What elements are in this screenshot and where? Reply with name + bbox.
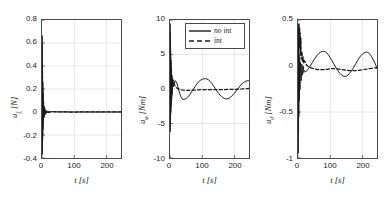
x-tick-label: 0 [155,162,183,170]
y-tick-label: 5 [128,50,165,58]
x-tick-label: 200 [349,162,377,170]
y-axis-label-unit: [Nm] [263,96,273,114]
x-axis-label-u-phi: t [s] [169,176,250,185]
y-tick-label: 0.5 [256,15,293,23]
x-axis-label-text: t [202,175,204,185]
y-tick-label: -0.2 [0,132,37,140]
y-tick-label: 0.8 [0,15,37,23]
y-axis-label-base: u [263,120,273,124]
y-axis-label-base: u [9,114,19,118]
y-tick-label: 0.4 [0,62,37,70]
x-tick-label: 100 [60,162,88,170]
y-tick-label: 0 [256,62,293,70]
subplot-u-xi: 0.80.60.40.20-0.2-0.4 0100200 t [s] uξ [… [0,0,128,200]
y-axis-label-subscript: ϑ [269,117,275,120]
series-dashed [42,45,121,150]
y-tick-label: 0 [128,85,165,93]
y-axis-label-u-theta: uϑ [Nm] [264,96,277,124]
plot-curves-u-xi [42,20,121,158]
x-axis-unit-text: [s] [335,175,345,185]
y-axis-label-u-phi: uφ [Nm] [138,96,151,124]
plot-area-u-theta [297,19,378,159]
y-tick-label: 10 [128,15,165,23]
series-solid [298,33,377,153]
y-axis-label-unit: [Nm] [137,96,147,114]
legend-label-no-int: no int [214,27,231,35]
x-tick-label: 200 [93,162,121,170]
x-tick-label: 200 [221,162,249,170]
y-axis-label-subscript: ξ [15,111,21,114]
legend-solid-line-sample [189,27,211,35]
x-tick-label: 0 [27,162,55,170]
plot-area-u-xi [41,19,122,159]
subplot-u-phi: no int int 1050-5-10 0100200 t [s] uφ [N… [128,0,256,200]
legend-entry-int: int [189,37,241,46]
x-tick-label: 100 [316,162,344,170]
x-axis-label-text: t [74,175,76,185]
y-tick-label: 0.2 [0,85,37,93]
subplot-u-theta: 0.50-0.5-1 0100200 t [s] uϑ [Nm] [256,0,384,200]
y-axis-label-subscript: φ [143,116,149,119]
series-dashed [298,24,377,122]
legend-label-int: int [214,37,222,45]
y-axis-label-base: u [137,120,147,124]
x-tick-label: 100 [188,162,216,170]
plot-curves-u-theta [298,20,377,158]
x-axis-unit-text: [s] [79,175,89,185]
x-tick-label: 0 [283,162,311,170]
figure-three-subplots: 0.80.60.40.20-0.2-0.4 0100200 t [s] uξ [… [0,0,384,200]
y-tick-label: 0.6 [0,38,37,46]
x-axis-unit-text: [s] [207,175,217,185]
y-axis-label-unit: [N] [9,97,19,109]
legend: no int int [185,23,245,49]
legend-dashed-line-sample [189,37,211,45]
x-axis-label-text: t [330,175,332,185]
series-solid [42,36,121,155]
x-axis-label-u-theta: t [s] [297,176,378,185]
x-axis-label-u-xi: t [s] [41,176,122,185]
y-axis-label-u-xi: uξ [N] [10,97,23,118]
legend-entry-no-int: no int [189,27,241,36]
